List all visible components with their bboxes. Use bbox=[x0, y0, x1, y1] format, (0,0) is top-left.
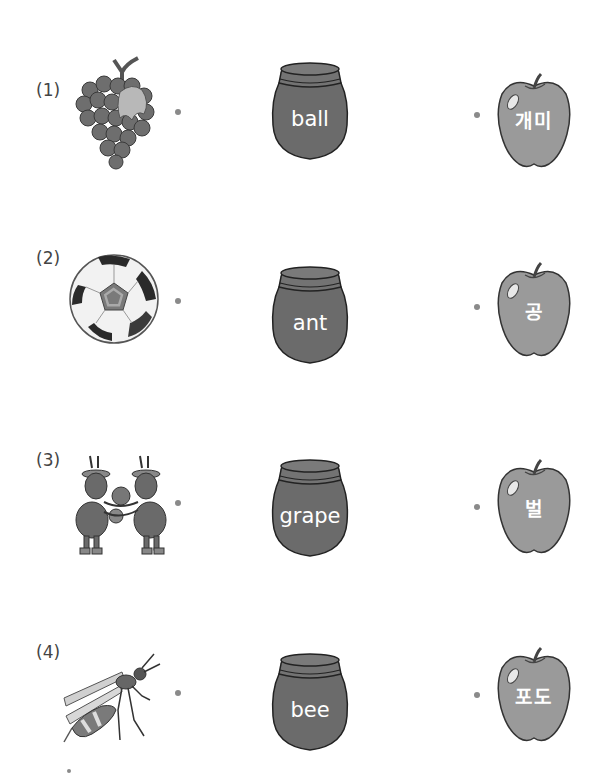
soccer-ball-picture bbox=[68, 253, 160, 345]
match-dot-left[interactable] bbox=[175, 500, 181, 506]
word-jar: ball bbox=[265, 55, 355, 165]
english-word: ant bbox=[265, 311, 355, 335]
korean-apple: 벌 bbox=[493, 458, 575, 558]
match-row-1: (1) ball 개미 bbox=[0, 40, 593, 180]
korean-word: 개미 bbox=[493, 106, 575, 133]
match-dot-left[interactable] bbox=[175, 690, 181, 696]
match-row-2: (2) ant 공 bbox=[0, 235, 593, 375]
match-dot-left[interactable] bbox=[175, 298, 181, 304]
match-dot-right[interactable] bbox=[474, 504, 480, 510]
grapes-picture bbox=[70, 52, 160, 172]
korean-word: 포도 bbox=[493, 682, 575, 709]
item-number: (2) bbox=[36, 248, 60, 268]
korean-apple: 개미 bbox=[493, 72, 575, 172]
word-jar: grape bbox=[265, 452, 355, 562]
korean-word: 벌 bbox=[493, 494, 575, 521]
item-number: (3) bbox=[36, 450, 60, 470]
korean-apple: 포도 bbox=[493, 646, 575, 746]
ants-picture bbox=[70, 450, 170, 560]
match-dot-right[interactable] bbox=[474, 304, 480, 310]
korean-apple: 공 bbox=[493, 261, 575, 361]
english-word: grape bbox=[265, 504, 355, 528]
stray-dot bbox=[67, 769, 71, 773]
english-word: bee bbox=[265, 698, 355, 722]
item-number: (1) bbox=[36, 80, 60, 100]
bee-picture bbox=[62, 650, 162, 750]
match-row-3: (3) grape 벌 bbox=[0, 430, 593, 570]
word-jar: bee bbox=[265, 646, 355, 756]
match-dot-left[interactable] bbox=[175, 109, 181, 115]
word-jar: ant bbox=[265, 259, 355, 369]
english-word: ball bbox=[265, 107, 355, 131]
match-dot-right[interactable] bbox=[474, 692, 480, 698]
match-row-4: (4) bee 포도 bbox=[0, 640, 593, 773]
match-dot-right[interactable] bbox=[474, 112, 480, 118]
korean-word: 공 bbox=[493, 297, 575, 324]
item-number: (4) bbox=[36, 642, 60, 662]
